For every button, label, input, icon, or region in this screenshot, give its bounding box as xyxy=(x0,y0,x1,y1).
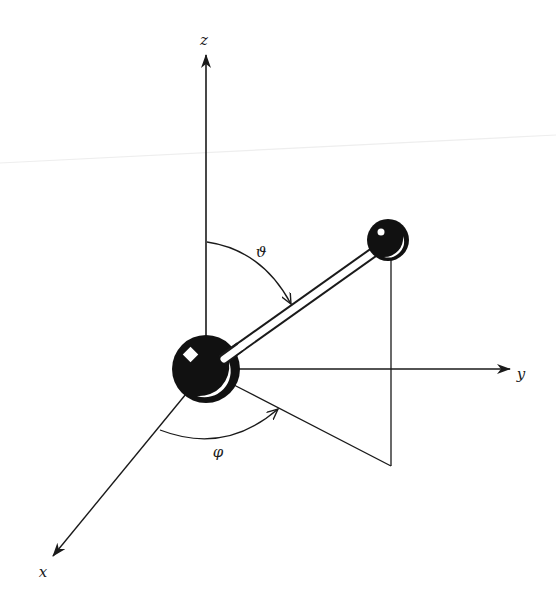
small-atom xyxy=(367,219,409,261)
z-axis-label: z xyxy=(200,33,208,48)
theta-arc xyxy=(207,242,291,304)
x-axis xyxy=(53,394,186,556)
bond-rod xyxy=(222,247,381,360)
scan-artifact-line xyxy=(0,135,556,163)
projection-line xyxy=(234,385,391,466)
theta-angle-label: ϑ xyxy=(256,245,267,260)
small-atom-highlight xyxy=(378,229,385,236)
molecule-coordinate-diagram xyxy=(0,0,556,612)
large-atom xyxy=(172,335,242,403)
phi-arc xyxy=(160,409,278,439)
y-axis-label: y xyxy=(517,367,525,382)
phi-angle-label: φ xyxy=(213,445,224,460)
x-axis-label: x xyxy=(39,565,47,580)
